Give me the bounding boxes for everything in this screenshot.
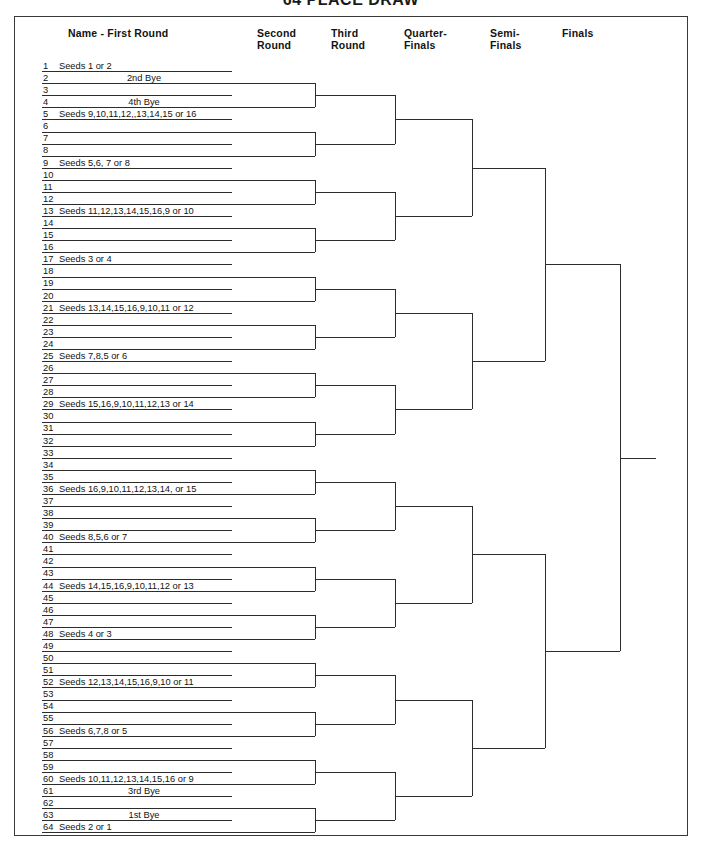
row-number: 56 bbox=[43, 726, 53, 736]
row-label: Seeds 13,14,15,16,9,10,11 or 12 bbox=[59, 303, 194, 313]
row-number: 14 bbox=[43, 218, 53, 228]
name-line bbox=[42, 119, 232, 120]
name-line bbox=[42, 651, 232, 652]
row-number: 18 bbox=[43, 266, 53, 276]
row-number: 34 bbox=[43, 460, 53, 470]
name-line bbox=[42, 760, 232, 761]
row-number: 17 bbox=[43, 254, 53, 264]
name-line bbox=[42, 180, 232, 181]
row-label: Seeds 16,9,10,11,12,13,14, or 15 bbox=[59, 484, 196, 494]
name-line bbox=[42, 458, 232, 459]
row-number: 26 bbox=[43, 363, 53, 373]
name-line bbox=[42, 83, 232, 84]
row-number: 30 bbox=[43, 411, 53, 421]
name-line bbox=[42, 712, 232, 713]
row-number: 12 bbox=[43, 194, 53, 204]
name-line bbox=[42, 422, 232, 423]
row-number: 24 bbox=[43, 339, 53, 349]
row-number: 45 bbox=[43, 593, 53, 603]
name-line bbox=[42, 639, 232, 640]
name-line bbox=[42, 409, 232, 410]
name-line bbox=[42, 820, 232, 821]
name-line bbox=[42, 132, 232, 133]
row-number: 50 bbox=[43, 653, 53, 663]
name-line bbox=[42, 784, 232, 785]
row-label: 1st Bye bbox=[58, 810, 230, 820]
name-line bbox=[42, 700, 232, 701]
name-line bbox=[42, 603, 232, 604]
row-number: 43 bbox=[43, 568, 53, 578]
name-line bbox=[42, 397, 232, 398]
name-line bbox=[42, 71, 232, 72]
row-number: 59 bbox=[43, 762, 53, 772]
row-number: 3 bbox=[43, 85, 48, 95]
name-line bbox=[42, 434, 232, 435]
row-label: Seeds 12,13,14,15,16,9,10 or 11 bbox=[59, 677, 194, 687]
name-line bbox=[42, 663, 232, 664]
row-number: 21 bbox=[43, 303, 53, 313]
row-number: 54 bbox=[43, 701, 53, 711]
name-line bbox=[42, 373, 232, 374]
row-number: 9 bbox=[43, 158, 48, 168]
row-number: 20 bbox=[43, 291, 53, 301]
name-line bbox=[42, 107, 232, 108]
name-line bbox=[42, 95, 232, 96]
row-label: Seeds 11,12,13,14,15,16,9 or 10 bbox=[59, 206, 194, 216]
name-line bbox=[42, 832, 232, 833]
name-line bbox=[42, 277, 232, 278]
row-number: 5 bbox=[43, 109, 48, 119]
row-number: 64 bbox=[43, 822, 53, 832]
row-label: Seeds 8,5,6 or 7 bbox=[59, 532, 127, 542]
row-label: Seeds 15,16,9,10,11,12,13 or 14 bbox=[59, 399, 194, 409]
row-label: Seeds 4 or 3 bbox=[59, 629, 112, 639]
name-line bbox=[42, 615, 232, 616]
row-number: 7 bbox=[43, 133, 48, 143]
row-number: 46 bbox=[43, 605, 53, 615]
name-line bbox=[42, 554, 232, 555]
name-line bbox=[42, 530, 232, 531]
row-number: 8 bbox=[43, 145, 48, 155]
row-number: 44 bbox=[43, 581, 53, 591]
row-label: Seeds 6,7,8 or 5 bbox=[59, 726, 127, 736]
row-number: 27 bbox=[43, 375, 53, 385]
row-label: Seeds 1 or 2 bbox=[59, 61, 112, 71]
name-line bbox=[42, 337, 232, 338]
row-number: 11 bbox=[43, 182, 53, 192]
name-line bbox=[42, 627, 232, 628]
name-line bbox=[42, 240, 232, 241]
name-line bbox=[42, 748, 232, 749]
name-line bbox=[42, 361, 232, 362]
row-number: 2 bbox=[43, 73, 48, 83]
name-line bbox=[42, 772, 232, 773]
row-label: 4th Bye bbox=[58, 97, 230, 107]
row-number: 32 bbox=[43, 436, 53, 446]
name-line bbox=[42, 796, 232, 797]
name-line bbox=[42, 313, 232, 314]
first-round-rows: 1Seeds 1 or 222nd Bye344th Bye5Seeds 9,1… bbox=[0, 0, 702, 858]
name-line bbox=[42, 591, 232, 592]
row-number: 40 bbox=[43, 532, 53, 542]
name-line bbox=[42, 724, 232, 725]
row-label: Seeds 2 or 1 bbox=[59, 822, 112, 832]
row-number: 15 bbox=[43, 230, 53, 240]
row-label: 3rd Bye bbox=[58, 786, 230, 796]
row-number: 48 bbox=[43, 629, 53, 639]
name-line bbox=[42, 325, 232, 326]
row-number: 41 bbox=[43, 544, 53, 554]
row-number: 37 bbox=[43, 496, 53, 506]
name-line bbox=[42, 808, 232, 809]
name-line bbox=[42, 446, 232, 447]
row-number: 39 bbox=[43, 520, 53, 530]
row-number: 61 bbox=[43, 786, 53, 796]
name-line bbox=[42, 192, 232, 193]
row-number: 29 bbox=[43, 399, 53, 409]
name-line bbox=[42, 204, 232, 205]
name-line bbox=[42, 567, 232, 568]
row-number: 1 bbox=[43, 61, 48, 71]
name-line bbox=[42, 579, 232, 580]
name-line bbox=[42, 252, 232, 253]
row-number: 47 bbox=[43, 617, 53, 627]
name-line bbox=[42, 228, 232, 229]
name-line bbox=[42, 144, 232, 145]
row-label: 2nd Bye bbox=[58, 73, 230, 83]
